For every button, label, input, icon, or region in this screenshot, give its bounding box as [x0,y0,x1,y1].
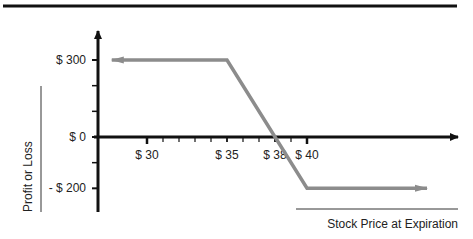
x-axis-title: Stock Price at Expiration [327,217,458,231]
ticks: $ 300$ 0- $ 200$ 30$ 35$ 38$ 40 [49,53,319,195]
series [112,60,427,188]
x-tick-label: $ 35 [215,148,239,162]
y-axis-title: Profit or Loss [21,141,35,212]
y-axis-title-group: Profit or Loss [21,86,41,212]
y-tick-label: $ 0 [69,130,86,144]
payoff-chart: Profit or Loss Stock Price at Expiration… [0,0,473,239]
x-axis-title-group: Stock Price at Expiration [296,209,458,231]
y-tick-label: $ 300 [56,53,86,67]
payoff-line [112,60,427,188]
x-tick-label: $ 40 [295,148,319,162]
y-tick-label: - $ 200 [49,181,87,195]
x-tick-label: $ 30 [135,148,159,162]
axes [94,31,458,212]
